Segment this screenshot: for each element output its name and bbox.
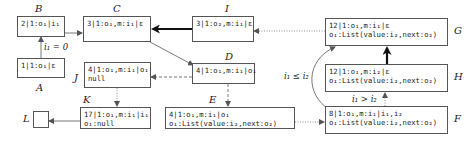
node-f-line-1: o₁:List(value:i₂,next:o₂) [329, 118, 444, 127]
node-i-line-0: 3|1:o₂,m:i₁|ε [196, 19, 250, 28]
node-f-label: F [454, 113, 461, 124]
node-a-line-0: 1|1:o₁|ε [21, 61, 61, 70]
node-c-line-0: 3|1:o₁,m:i₁|ε [87, 19, 147, 28]
node-h-line-1: o₁:List(value:i₂,next:o₂) [329, 76, 444, 85]
edge-c-d [150, 42, 193, 65]
node-d-label: D [225, 51, 233, 62]
node-l [33, 111, 49, 128]
node-d: 4|1:o₁,m:i₁|o₁ [192, 63, 255, 84]
node-f-line-0: 8|1:o₁,m:i₁|i₁,i₂ [329, 109, 444, 118]
node-k: 17|1:o₁,m:i₁|i₁ o₁:null [80, 107, 151, 129]
node-e-label: E [209, 94, 216, 105]
node-b: 2|1:o₁|i₁ [17, 16, 65, 37]
node-g-line-0: 12|1:o₁,m:i₁|ε [329, 21, 444, 30]
node-i: 3|1:o₂,m:i₁|ε [192, 16, 254, 42]
node-h-line-0: 12|1:o₁,m:i₂|ε [329, 67, 444, 76]
node-j-line-1: null [88, 74, 147, 83]
node-j-line-0: 4|1:o₁,m:i₁|o₁ [88, 65, 147, 74]
condition-a-b: i₁ = 0 [44, 42, 68, 52]
node-h-label: H [454, 71, 463, 82]
node-h: 12|1:o₁,m:i₂|ε o₁:List(value:i₂,next:o₂) [325, 64, 448, 92]
node-k-label: K [83, 94, 90, 105]
node-e-line-1: o₁:List(value:i₂,next:o₂) [169, 119, 291, 128]
node-f: 8|1:o₁,m:i₁|i₁,i₂ o₁:List(value:i₂,next:… [325, 106, 448, 134]
node-a-label: A [36, 82, 43, 93]
node-j-label: J [74, 72, 78, 83]
node-c-label: C [113, 3, 121, 14]
node-e: 4|1:o₁,m:i₁|o₁ o₁:List(value:i₂,next:o₂) [165, 107, 295, 129]
node-k-line-0: 17|1:o₁,m:i₁|i₁ [84, 110, 147, 119]
node-g: 12|1:o₁,m:i₁|ε o₁:List(value:i₂,next:o₂) [325, 18, 448, 46]
node-c: 3|1:o₁,m:i₁|ε [83, 16, 151, 42]
node-i-label: I [225, 3, 229, 14]
node-e-line-0: 4|1:o₁,m:i₁|o₁ [169, 110, 291, 119]
node-j: 4|1:o₁,m:i₁|o₁ null [84, 62, 151, 88]
condition-f-h: i₁ > i₂ [352, 94, 377, 104]
node-b-line-0: 2|1:o₁|i₁ [21, 19, 61, 28]
node-g-line-1: o₁:List(value:i₂,next:o₂) [329, 30, 444, 39]
node-k-line-1: o₁:null [84, 119, 147, 128]
condition-f-g: i₁ ≤ i₂ [284, 71, 309, 81]
node-a: 1|1:o₁|ε [17, 58, 65, 78]
node-d-line-0: 4|1:o₁,m:i₁|o₁ [196, 66, 251, 75]
node-g-label: G [454, 25, 462, 36]
node-l-label: L [23, 113, 30, 124]
node-b-label: B [35, 3, 42, 14]
